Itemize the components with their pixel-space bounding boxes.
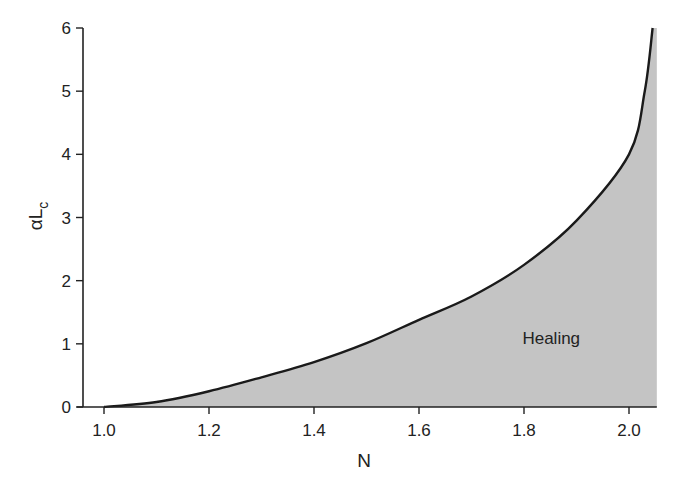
chart: 1.01.21.41.61.82.0 0123456 N αLc Healing [0, 0, 677, 486]
healing-region-fill [104, 28, 657, 407]
x-axis-label: N [357, 450, 371, 471]
y-axis-label-main: αL [25, 209, 46, 231]
y-tick-label: 1 [62, 335, 71, 354]
svg-text:αLc: αLc [25, 202, 51, 231]
x-tick-label: 1.2 [197, 421, 221, 440]
x-tick-label: 1.4 [302, 421, 326, 440]
y-axis-ticks: 0123456 [62, 19, 83, 417]
x-axis-ticks: 1.01.21.41.61.82.0 [92, 407, 641, 440]
healing-area [104, 28, 657, 407]
y-tick-label: 5 [62, 82, 71, 101]
y-axis-label-subscript: c [35, 202, 51, 209]
y-tick-label: 6 [62, 19, 71, 38]
y-tick-label: 3 [62, 209, 71, 228]
healing-region-label: Healing [522, 329, 580, 348]
x-tick-label: 1.0 [92, 421, 116, 440]
x-tick-label: 1.6 [407, 421, 431, 440]
y-tick-label: 0 [62, 398, 71, 417]
x-tick-label: 2.0 [617, 421, 641, 440]
y-tick-label: 2 [62, 272, 71, 291]
y-tick-label: 4 [62, 145, 71, 164]
y-axis-label: αLc [25, 202, 51, 231]
x-tick-label: 1.8 [512, 421, 536, 440]
